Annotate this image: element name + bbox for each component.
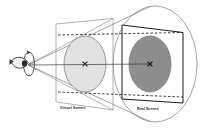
virtual-screen-disc [64,36,106,92]
viewing-frustum-diagram: Virtual Screen Real Screen [0,0,200,128]
real-screen-label: Real Screen [137,107,159,111]
figure-canvas: Virtual Screen Real Screen [0,0,200,128]
virtual-screen-label: Virtual Screen [60,106,86,110]
eye-icon [10,57,29,68]
